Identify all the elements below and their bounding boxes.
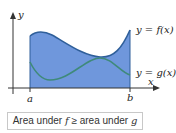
y-axis-label: y (18, 9, 24, 20)
y-axis-arrow-icon (10, 12, 16, 19)
bound-a-label: a (27, 93, 33, 104)
x-axis-arrow-icon (153, 85, 160, 91)
caption-box: Area under f ≥ area under g (7, 112, 143, 130)
caption-prefix: Area under (13, 115, 65, 126)
caption-mid: ≥ area under (69, 115, 131, 126)
caption-g: g (131, 115, 137, 126)
bound-b-label: b (127, 92, 133, 103)
curve-f-label: y = f(x) (136, 24, 174, 35)
curve-g-label: y = g(x) (136, 67, 176, 78)
